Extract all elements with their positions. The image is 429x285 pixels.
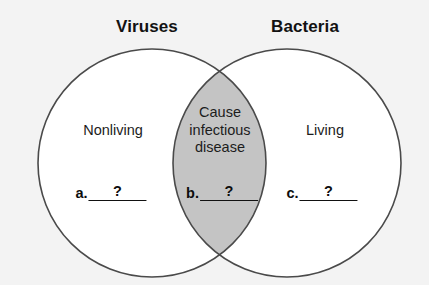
answer-blank-b-field[interactable]: ? <box>200 183 258 201</box>
answer-blank-a[interactable]: a. ? <box>75 183 146 201</box>
answer-blank-c-letter: c. <box>286 185 299 201</box>
venn-diagram-figure: Viruses Bacteria Nonliving Living Cause … <box>0 0 429 285</box>
set-title-right: Bacteria <box>271 17 339 37</box>
answer-blank-b-letter: b. <box>186 185 200 201</box>
overlap-line-1: Cause <box>189 104 250 122</box>
answer-blank-c[interactable]: c. ? <box>286 183 357 201</box>
answer-blank-a-field[interactable]: ? <box>89 183 147 201</box>
answer-blank-b[interactable]: b. ? <box>186 183 258 201</box>
answer-blank-a-letter: a. <box>75 185 88 201</box>
region-label-overlap: Cause infectious disease <box>189 104 250 157</box>
overlap-line-2: infectious <box>189 122 250 140</box>
overlap-line-3: disease <box>189 139 250 157</box>
region-label-left-only: Nonliving <box>83 122 143 139</box>
set-title-left: Viruses <box>116 17 178 37</box>
answer-blank-c-field[interactable]: ? <box>300 183 358 201</box>
region-label-right-only: Living <box>306 122 344 139</box>
